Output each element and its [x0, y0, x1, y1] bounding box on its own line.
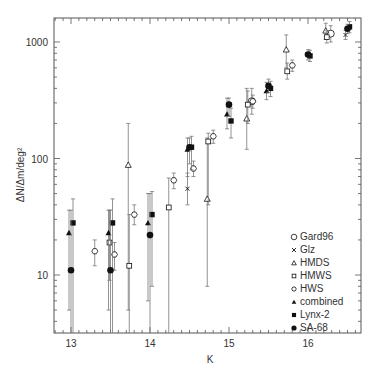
x-tick-13: 13 — [65, 338, 77, 349]
legend-label-hmds: HMDS — [300, 257, 330, 268]
x-axis-label: K — [207, 354, 214, 365]
legend: Gard96 Glz HMDS HMWS HWS combined Lynx-2… — [291, 231, 343, 333]
y-tick-10: 10 — [37, 270, 49, 281]
x-tick-14: 14 — [144, 338, 156, 349]
x-tick-15: 15 — [223, 338, 235, 349]
legend-label-glz: Glz — [300, 244, 315, 255]
chart: 1000 100 10 13 14 15 16 K ΔN/Δm/deg² Gar… — [0, 0, 383, 379]
y-tick-1000: 1000 — [26, 37, 49, 48]
x-tick-16: 16 — [302, 338, 314, 349]
series-glz — [186, 30, 348, 205]
y-axis-label: ΔN/Δm/deg² — [15, 147, 26, 202]
legend-label-hws: HWS — [300, 283, 324, 294]
legend-label-sa68: SA-68 — [300, 322, 328, 333]
series-hmds — [125, 23, 329, 310]
y-tick-100: 100 — [31, 154, 48, 165]
legend-label-gard96: Gard96 — [300, 231, 334, 242]
legend-label-hmws: HMWS — [300, 270, 332, 281]
series-gard96 — [248, 26, 334, 115]
series-combined — [66, 82, 270, 310]
legend-markers — [291, 234, 297, 330]
legend-label-lynx2: Lynx-2 — [300, 309, 330, 320]
legend-label-combined: combined — [300, 296, 343, 307]
